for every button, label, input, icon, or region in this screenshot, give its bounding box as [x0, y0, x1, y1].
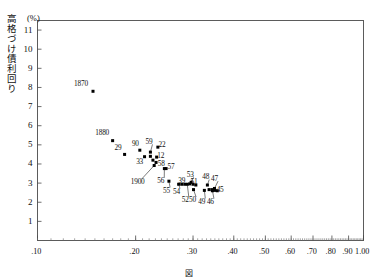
y-tick-label: 9	[19, 63, 33, 73]
data-point-label: 48	[202, 172, 209, 181]
data-point-label: 50	[189, 195, 196, 204]
y-tick-label: 7	[19, 101, 33, 111]
figure-caption: 図	[0, 267, 377, 277]
y-tick-label: 1	[19, 216, 33, 226]
data-point-label: 45	[217, 185, 224, 194]
data-point-label: 58	[158, 159, 165, 168]
x-tick-label: .90	[342, 247, 352, 256]
figure-scatter-bond-yield: (%) 高格づけ債利回り 1234567891011 .10.20.30.40.…	[0, 0, 377, 277]
y-axis-unit-label: (%)	[27, 13, 40, 23]
y-tick-label: 6	[19, 120, 33, 130]
data-point-label: 33	[136, 157, 143, 166]
x-tick-label: .70	[307, 247, 317, 256]
plot-canvas	[0, 0, 377, 277]
x-tick-label: .20	[129, 247, 139, 256]
data-point-label: 47	[211, 174, 218, 183]
x-tick-label: .40	[227, 247, 237, 256]
data-point-label: 90	[132, 139, 139, 148]
x-tick-label: .30	[187, 247, 197, 256]
y-tick-label: 4	[19, 158, 33, 168]
data-point-label: 59	[145, 137, 152, 146]
data-point-label: 49	[198, 197, 205, 206]
data-point-label: 46	[207, 197, 214, 206]
data-point-label: 56	[157, 176, 164, 185]
data-point-label: 51	[191, 177, 198, 186]
y-tick-label: 8	[19, 82, 33, 92]
data-point-label: 54	[173, 187, 180, 196]
data-point-label: 22	[158, 140, 165, 149]
data-point-label: 1900	[131, 177, 145, 186]
data-point-label: 1880	[95, 128, 109, 137]
data-point-label: 57	[168, 162, 175, 171]
y-tick-label: 11	[19, 25, 33, 35]
data-point-label: 39	[178, 176, 185, 185]
x-tick-label: .60	[285, 247, 295, 256]
x-tick-label: .50	[259, 247, 269, 256]
data-point-label: 52	[182, 195, 189, 204]
x-tick-label: .10	[31, 247, 41, 256]
y-axis-title: 高格づけ債利回り	[2, 14, 17, 106]
y-tick-label: 10	[19, 44, 33, 54]
y-tick-label: 5	[19, 139, 33, 149]
y-tick-label: 2	[19, 197, 33, 207]
data-point-label: 29	[115, 143, 122, 152]
data-point-label: 1870	[74, 79, 88, 88]
y-tick-label: 3	[19, 178, 33, 188]
x-tick-label: 1.00	[355, 247, 369, 256]
x-tick-label: .80	[326, 247, 336, 256]
data-point-label: 55	[163, 186, 170, 195]
